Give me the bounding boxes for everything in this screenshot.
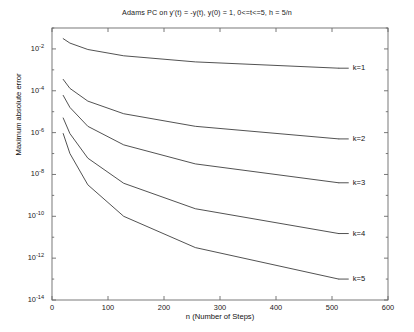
axes-frame xyxy=(52,28,388,300)
x-tick-label: 100 xyxy=(93,303,123,312)
x-axis-ticks xyxy=(52,28,388,300)
series-label-k2: k=2 xyxy=(353,134,365,143)
x-tick-label: 600 xyxy=(373,303,403,312)
series-line-k2 xyxy=(63,79,339,139)
x-tick-label: 200 xyxy=(149,303,179,312)
y-tick-label: 10-8 xyxy=(14,169,44,178)
y-tick-label: 10-10 xyxy=(14,211,44,220)
series-line-k1 xyxy=(63,39,339,69)
y-tick-label: 10-6 xyxy=(14,128,44,137)
series-lines xyxy=(63,39,339,279)
series-label-k5: k=5 xyxy=(353,274,365,283)
series-label-k4: k=4 xyxy=(353,229,365,238)
series-label-k1: k=1 xyxy=(353,63,365,72)
figure-canvas: Adams PC on y'(t) = -y(t), y(0) = 1, 0<=… xyxy=(0,0,414,332)
y-tick-label: 10-12 xyxy=(14,253,44,262)
series-leader-lines xyxy=(339,68,349,279)
x-tick-label: 400 xyxy=(261,303,291,312)
y-tick-label: 10-4 xyxy=(14,86,44,95)
x-tick-label: 0 xyxy=(37,303,67,312)
series-line-k5 xyxy=(63,134,339,280)
y-tick-label: 10-2 xyxy=(14,44,44,53)
y-tick-label: 10-14 xyxy=(14,295,44,304)
series-label-k3: k=3 xyxy=(353,178,365,187)
x-tick-label: 300 xyxy=(205,303,235,312)
x-tick-label: 500 xyxy=(317,303,347,312)
y-axis-ticks xyxy=(52,28,388,300)
